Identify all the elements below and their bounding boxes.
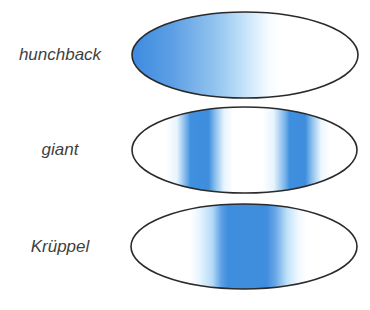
- embryo-giant: [132, 107, 357, 193]
- embryo-kruppel: [131, 204, 357, 289]
- embryo-hunchback: [132, 12, 358, 98]
- embryo-diagram: [0, 0, 370, 310]
